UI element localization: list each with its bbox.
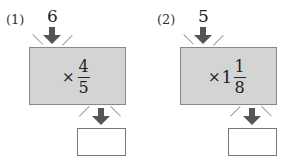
fraction-2: 1 8 (233, 59, 245, 96)
input-ray-right (213, 35, 224, 46)
numerator: 1 (233, 59, 245, 75)
multiply-sign: × (62, 68, 75, 86)
operation-2: × 1 1 8 (208, 59, 246, 95)
problem-2-input: 5 (198, 6, 209, 26)
output-ray-right (261, 106, 272, 117)
problem-1-label: (1) (6, 12, 24, 27)
answer-box-2[interactable] (228, 128, 277, 156)
numerator: 4 (78, 59, 90, 75)
operation-1: × 4 5 (62, 59, 90, 95)
problem-2-label: (2) (157, 12, 175, 27)
fraction-1: 4 5 (78, 59, 90, 96)
denominator: 5 (78, 80, 90, 96)
output-ray-left (79, 106, 90, 117)
whole-number: 1 (222, 67, 233, 87)
multiply-sign: × (208, 68, 221, 86)
denominator: 8 (233, 80, 245, 96)
input-ray-right (62, 35, 73, 46)
output-ray-right (110, 106, 121, 117)
answer-box-1[interactable] (77, 128, 126, 156)
problem-1-input: 6 (47, 6, 58, 26)
input-ray-left (32, 34, 43, 45)
input-ray-left (183, 34, 194, 45)
output-ray-left (230, 106, 241, 117)
